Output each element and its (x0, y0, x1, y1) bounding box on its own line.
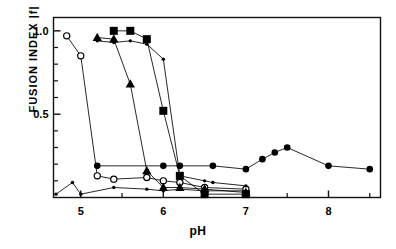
chart-canvas: 56780.51.0 (0, 0, 396, 249)
x-axis-title: pH (0, 224, 396, 238)
data-point-open-circle (111, 176, 117, 182)
data-point-dot (129, 39, 132, 42)
data-point-dot (112, 186, 115, 189)
data-point-circle (325, 163, 332, 170)
data-point-dot (162, 189, 165, 192)
series-line-square-series (114, 31, 246, 194)
data-point-circle (243, 166, 250, 173)
data-point-triangle (126, 79, 135, 87)
series-line-small-dot-upper-series (97, 41, 246, 186)
data-point-dot (244, 189, 247, 192)
data-point-open-circle (144, 174, 150, 180)
data-point-dot (71, 181, 74, 184)
x-tick-label: 5 (78, 205, 84, 217)
x-tick-label: 8 (325, 205, 331, 217)
data-point-dot (178, 187, 181, 190)
data-point-dot (112, 41, 115, 44)
y-axis-title: FUSION INDEX |f| (27, 0, 45, 139)
data-point-dot (145, 187, 148, 190)
x-tick-label: 7 (243, 205, 249, 217)
data-point-dot (211, 181, 214, 184)
data-point-dot (162, 57, 165, 60)
data-point-triangle (142, 166, 151, 174)
data-point-dot (145, 42, 148, 45)
data-point-circle (177, 163, 184, 170)
data-point-dot (79, 192, 82, 195)
data-point-square (110, 27, 118, 35)
data-point-circle (259, 156, 266, 163)
data-point-square (159, 107, 167, 115)
data-point-dot (54, 192, 57, 195)
data-point-circle (366, 166, 373, 173)
fusion-index-ph-chart: 56780.51.0 FUSION INDEX |f| pH (0, 0, 396, 249)
data-point-circle (284, 144, 291, 151)
data-point-circle (210, 163, 217, 170)
data-point-circle (94, 163, 101, 170)
data-point-dot (244, 184, 247, 187)
data-point-dot (96, 39, 99, 42)
x-tick-label: 6 (160, 205, 166, 217)
data-point-open-circle (78, 53, 84, 59)
data-point-dot (203, 189, 206, 192)
data-point-circle (272, 149, 279, 156)
data-point-open-circle (64, 33, 70, 39)
data-point-dot (203, 179, 206, 182)
data-point-circle (160, 163, 167, 170)
data-point-square (126, 27, 134, 35)
data-point-dot (178, 174, 181, 177)
data-point-square (143, 35, 151, 43)
data-point-open-circle (94, 173, 100, 179)
plot-frame (54, 18, 381, 198)
